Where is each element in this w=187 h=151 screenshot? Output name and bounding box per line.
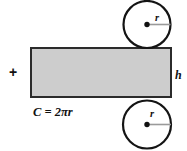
lateral-surface-rectangle (31, 48, 171, 97)
plus-sign: + (9, 64, 17, 80)
circumference-formula: C = 2πr (33, 105, 73, 119)
cylinder-net-diagram: r r + h C = 2πr (0, 0, 187, 151)
top-circle-center-dot (144, 22, 149, 27)
bottom-circle-center-dot (144, 122, 149, 127)
diagram-canvas: r r + h C = 2πr (0, 0, 187, 151)
height-label: h (175, 68, 182, 82)
